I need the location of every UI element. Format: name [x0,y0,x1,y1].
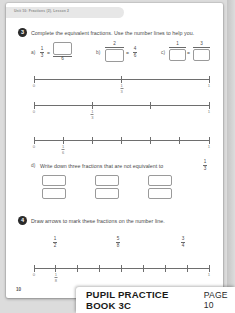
denominator-input[interactable] [42,188,66,199]
number-line-tick [165,265,166,272]
part-c-equals: = [187,50,190,56]
part-b-right-numerator: 4 [133,47,137,52]
number-line-label-fraction: 13 [91,110,94,120]
number-line-axis [34,105,209,106]
denominator: 3 [91,116,93,120]
number-line-tick [77,265,78,272]
number-line-thirds-halfway: 0131 [34,76,209,92]
number-line-tick [150,102,151,109]
numerator-input[interactable] [42,175,66,186]
part-d-numerator: 1 [203,160,207,165]
numerator: 1 [55,273,57,277]
part-a-left-numerator: 1 [40,47,44,52]
part-d-answer-3[interactable] [149,175,171,199]
number-line-label-whole: 1 [208,145,210,149]
number-line-tick [55,265,56,272]
number-line-label-whole: 0 [33,145,35,149]
footer-book-title: PUPIL PRACTICE BOOK 3C [86,289,198,311]
number-line-tick [209,137,210,144]
number-line-label-whole: 0 [33,110,35,114]
question-4-fraction-2: 5 8 [116,237,120,248]
part-a-numerator-input[interactable] [53,42,72,55]
running-head: Unit 10: Fractions (2), Lesson 2 [6,7,124,18]
number-line-tick [121,137,122,144]
number-line-sixths: 0161 [34,137,209,153]
part-c-left-numerator: 1 [176,42,180,47]
denominator: 8 [55,279,57,283]
number-line-tick [34,76,35,83]
number-line-tick [121,76,122,83]
part-b-left-numerator: 2 [113,42,117,47]
number-line-label-fraction: 18 [54,273,57,283]
part-a-left-fraction: 1 3 [40,47,44,58]
question-3-prompt: Complete the equivalent fractions. Use t… [31,30,194,36]
footer-banner: PUPIL PRACTICE BOOK 3C PAGE 10 [76,287,235,313]
number-line-tick [34,265,35,272]
question-4-fraction-1: 1 2 [53,237,57,248]
part-c-left-denominator-input[interactable] [169,49,186,61]
numerator: 1 [91,110,93,114]
page-number: 10 [16,287,21,292]
part-c-left-fraction: 1 [169,42,186,61]
part-a-equals: = [47,50,50,56]
part-d-fraction: 1 3 [203,160,207,171]
numerator: 3 [181,237,185,242]
number-line-tick [209,76,210,83]
number-line-eighths: 0181 [34,265,209,281]
number-line-tick [34,102,35,109]
numerator-input[interactable] [95,175,119,186]
numerator: 1 [53,237,57,242]
question-4-prompt: Draw arrows to mark these fractions on t… [31,218,165,224]
number-line-tick [63,137,64,144]
part-d-label: d) [31,163,35,168]
number-line-label-whole: 0 [33,273,35,277]
workbook-page: Unit 10: Fractions (2), Lesson 2 3 Compl… [6,3,223,298]
numerator: 1 [62,145,64,149]
number-line-tick [209,265,210,272]
denominator-input[interactable] [148,188,172,199]
part-a-left-denominator: 3 [40,54,44,59]
number-line-label-whole: 1 [208,273,210,277]
part-a-right-denominator: 6 [61,57,65,62]
number-line-tick [34,137,35,144]
part-c-right-numerator: 3 [200,42,204,47]
footer-page-label: PAGE 10 [204,290,235,310]
part-b-equals: = [126,50,129,56]
question-4-number: 4 [18,216,27,225]
part-a-label: a) [31,50,35,55]
denominator: 2 [53,244,57,249]
number-line-label-fraction: 13 [120,84,123,94]
part-d-prompt: Write down three fractions that are not … [40,163,163,169]
part-d-answer-2[interactable] [96,175,118,199]
denominator-input[interactable] [95,188,119,199]
number-line-tick [179,137,180,144]
numerator: 5 [116,237,120,242]
number-line-tick [187,265,188,272]
question-3-number: 3 [18,28,27,37]
number-line-tick [121,265,122,272]
part-c-right-denominator-input[interactable] [193,49,210,61]
numerator-input[interactable] [148,175,172,186]
part-b-denominator-input[interactable] [105,49,124,62]
question-4-fraction-3: 3 4 [181,237,185,248]
denominator: 8 [116,244,120,249]
denominator: 4 [181,244,185,249]
number-line-label-whole: 1 [208,110,210,114]
numerator: 1 [120,84,122,88]
part-b-left-fraction: 2 [105,42,124,62]
number-line-tick [92,102,93,109]
number-line-tick [99,265,100,272]
number-line-label-whole: 1 [208,84,210,88]
number-line-label-fraction: 16 [62,145,65,155]
number-line-tick [209,102,210,109]
part-b-label: b) [96,50,100,55]
part-d-answer-1[interactable] [43,175,65,199]
part-b-right-denominator: 6 [133,54,137,59]
number-line-label-whole: 0 [33,84,35,88]
number-line-thirds: 0131 [34,102,209,118]
running-head-text: Unit 10: Fractions (2), Lesson 2 [14,9,69,13]
denominator: 6 [62,151,64,155]
number-line-tick [92,137,93,144]
part-a-right-fraction: 6 [53,42,72,62]
part-c-label: c) [161,50,165,55]
